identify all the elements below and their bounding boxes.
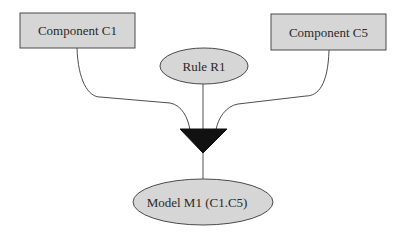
component-model-diagram: Component C1 Component C5 Rule R1 Model … [0,0,406,235]
rule-r1-label: Rule R1 [183,59,226,74]
component-c1-label: Component C1 [38,23,117,38]
node-component-c5[interactable]: Component C5 [271,14,386,50]
node-rule-r1[interactable]: Rule R1 [160,48,248,84]
component-c5-label: Component C5 [289,25,368,40]
model-m1-label: Model M1 (C1.C5) [147,195,248,210]
node-model-m1[interactable]: Model M1 (C1.C5) [133,179,273,225]
node-component-c1[interactable]: Component C1 [20,13,135,48]
merge-junction-triangle-icon [180,129,227,153]
